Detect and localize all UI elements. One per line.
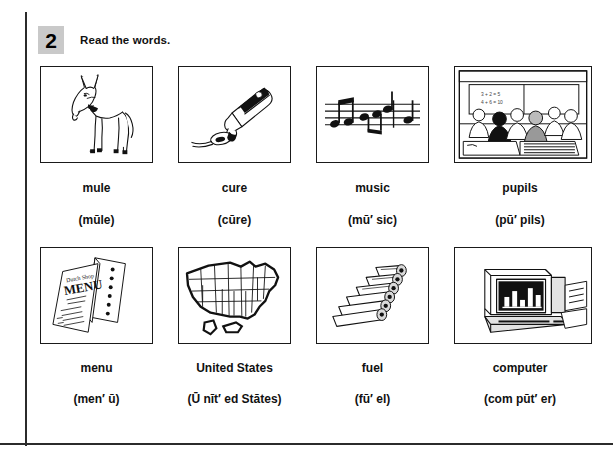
worksheet-page: 2 Read the words. <box>0 0 613 455</box>
word-item-computer: computer (com pūt′ er) <box>454 247 592 406</box>
picture-frame <box>40 66 153 163</box>
word-row-1: mule (mūle) <box>40 66 585 227</box>
word-label: computer <box>448 361 592 375</box>
word-label: cure <box>178 181 291 195</box>
word-label: fuel <box>316 361 429 375</box>
mule-illustration <box>41 67 152 162</box>
word-item-fuel: fuel (fū′ el) <box>316 247 429 406</box>
word-item-cure: cure (cūre) <box>178 66 291 227</box>
left-margin-rule <box>25 12 27 446</box>
picture-frame <box>316 66 429 163</box>
respelling-label: (mūle) <box>40 213 153 227</box>
word-item-pupils: 3 + 2 = 5 4 + 6 = 10 <box>454 66 592 227</box>
respelling-label: (men′ ū) <box>40 392 153 406</box>
word-item-menu: Dutch Shop MENU <box>40 247 153 406</box>
picture-frame: Dutch Shop MENU <box>40 247 153 344</box>
exercise-header: 2 Read the words. <box>38 26 170 54</box>
respelling-label: (pū′ pils) <box>448 213 592 227</box>
respelling-label: (cūre) <box>178 213 291 227</box>
word-item-mule: mule (mūle) <box>40 66 153 227</box>
respelling-label: (fū′ el) <box>316 392 429 406</box>
exercise-instruction: Read the words. <box>80 34 170 46</box>
word-label: mule <box>40 181 153 195</box>
classroom-pupils-illustration: 3 + 2 = 5 4 + 6 = 10 <box>455 67 591 162</box>
picture-frame <box>178 66 291 163</box>
word-label: menu <box>40 361 153 375</box>
svg-text:3 + 2 = 5: 3 + 2 = 5 <box>481 92 501 97</box>
word-label: pupils <box>448 181 592 195</box>
medicine-bottle-spoon-illustration <box>179 67 290 162</box>
respelling-label: (Ū nīt′ ed Stātes) <box>178 392 291 406</box>
exercise-number-badge: 2 <box>38 26 64 54</box>
word-label: music <box>316 181 429 195</box>
picture-frame <box>454 247 592 344</box>
firewood-logs-illustration <box>317 248 428 343</box>
svg-text:4 + 6 = 10: 4 + 6 = 10 <box>481 100 503 105</box>
bottom-rule <box>0 443 613 445</box>
desktop-computer-illustration <box>455 248 591 343</box>
restaurant-menu-illustration: Dutch Shop MENU <box>41 248 152 343</box>
picture-frame <box>178 247 291 344</box>
respelling-label: (mū′ sic) <box>316 213 429 227</box>
word-picture-grid: mule (mūle) <box>40 66 585 406</box>
word-row-2: Dutch Shop MENU <box>40 247 585 406</box>
music-staff-notes-illustration <box>317 67 428 162</box>
united-states-map-illustration <box>179 248 290 343</box>
word-item-united-states: United States (Ū nīt′ ed Stātes) <box>178 247 291 406</box>
word-label: United States <box>178 361 291 375</box>
picture-frame <box>316 247 429 344</box>
picture-frame: 3 + 2 = 5 4 + 6 = 10 <box>454 66 592 163</box>
word-item-music: music (mū′ sic) <box>316 66 429 227</box>
respelling-label: (com pūt′ er) <box>448 392 592 406</box>
